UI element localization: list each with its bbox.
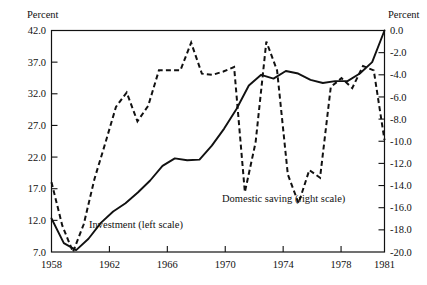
right-tick-label: -12.0 [390, 158, 412, 169]
left-tick-label: 17.0 [28, 183, 46, 194]
x-tick-label: 1962 [99, 259, 120, 270]
series-line-investment [52, 31, 385, 251]
x-tick-label: 1966 [157, 259, 178, 270]
left-tick-label: 22.0 [28, 152, 46, 163]
left-axis-tick-labels: 42.037.032.027.022.017.012.07.0 [28, 25, 46, 258]
right-tick-label: -18.0 [390, 224, 412, 235]
series-label-domestic-saving: Domestic saving (right scale) [222, 193, 346, 205]
left-axis-ticks [52, 62, 58, 220]
right-axis-tick-labels: 0.0-2.0-4.0-6.0-8.0-10.0-12.0-14.0-16.0-… [390, 25, 412, 258]
x-tick-label: 1974 [273, 259, 295, 270]
right-tick-label: 0.0 [390, 25, 403, 36]
right-axis-ticks [379, 53, 385, 230]
right-tick-label: -20.0 [390, 247, 412, 258]
left-tick-label: 42.0 [28, 25, 46, 36]
left-tick-label: 37.0 [28, 57, 46, 68]
right-tick-label: -8.0 [390, 114, 407, 125]
x-axis-ticks [109, 246, 341, 252]
left-axis-title: Percent [27, 9, 59, 20]
right-tick-label: -6.0 [390, 92, 407, 103]
series-label-investment: Investment (left scale) [89, 219, 183, 231]
left-tick-label: 7.0 [33, 247, 46, 258]
left-tick-label: 27.0 [28, 120, 46, 131]
right-tick-label: -10.0 [390, 136, 412, 147]
x-axis-tick-labels: 1958196219661970197419781981 [41, 259, 395, 270]
right-tick-label: -4.0 [390, 69, 407, 80]
right-tick-label: -14.0 [390, 180, 412, 191]
dual-axis-line-chart: Percent Percent 42.037.032.027.022.017.0… [0, 0, 427, 285]
right-tick-label: -2.0 [390, 47, 407, 58]
x-tick-label: 1958 [41, 259, 62, 270]
right-tick-label: -16.0 [390, 202, 412, 213]
chart-figure: Percent Percent 42.037.032.027.022.017.0… [0, 0, 427, 285]
left-tick-label: 12.0 [28, 215, 46, 226]
x-tick-label: 1978 [331, 259, 352, 270]
right-axis-title: Percent [388, 9, 420, 20]
x-tick-label: 1981 [374, 259, 395, 270]
x-tick-label: 1970 [215, 259, 236, 270]
left-tick-label: 32.0 [28, 88, 46, 99]
